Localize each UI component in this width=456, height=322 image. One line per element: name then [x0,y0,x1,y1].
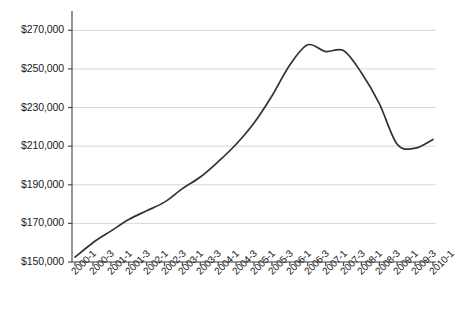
y-axis-tick-label: $150,000 [0,255,64,267]
y-axis-tick-label: $250,000 [0,62,64,74]
y-axis-tick-label: $210,000 [0,139,64,151]
axis-lines [72,11,436,262]
gridlines [72,30,436,262]
y-axis-tick-label: $190,000 [0,178,64,190]
y-axis-tick-label: $230,000 [0,101,64,113]
y-axis-tick-label: $270,000 [0,23,64,35]
y-axis-tick-label: $170,000 [0,216,64,228]
price-series-line [75,44,433,257]
